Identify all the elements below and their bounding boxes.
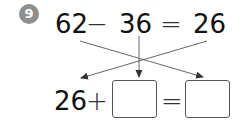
answer-box-2[interactable]: [185, 80, 230, 118]
plus-sign: +: [86, 88, 108, 114]
addend: 26: [54, 88, 87, 114]
arrow-62-to-blank2: [80, 41, 203, 77]
equals-sign-bottom: =: [161, 88, 183, 114]
answer-box-1[interactable]: [112, 80, 157, 118]
